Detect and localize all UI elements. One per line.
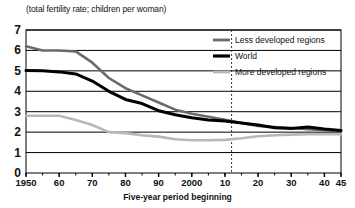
y-tick-label-7: 7 [3, 24, 21, 36]
y-tick-label-6: 6 [3, 44, 21, 56]
x-tick-label-2045: 45 [326, 178, 355, 188]
x-tick-label-2010: 10 [210, 178, 240, 188]
y-tick-label-4: 4 [3, 85, 21, 97]
x-axis-title: Five-year period beginning [0, 192, 355, 202]
x-tick-label-1960: 60 [44, 178, 74, 188]
y-tick-label-1: 1 [3, 147, 21, 159]
series-line-1 [26, 70, 341, 130]
x-tick-label-2020: 20 [243, 178, 273, 188]
legend-label-1: World [235, 51, 257, 61]
x-tick-label-1980: 80 [110, 178, 140, 188]
legend-label-0: Less developed regions [235, 35, 325, 45]
y-tick-label-2: 2 [3, 126, 21, 138]
x-tick-label-2000: 2000 [177, 178, 207, 188]
y-tick-label-3: 3 [3, 106, 21, 118]
x-tick-label-1990: 90 [144, 178, 174, 188]
fertility-rate-chart: (total fertility rate; children per woma… [0, 0, 355, 208]
x-tick-label-2030: 30 [276, 178, 306, 188]
x-tick-label-1970: 70 [77, 178, 107, 188]
y-tick-label-5: 5 [3, 65, 21, 77]
x-tick-label-1950: 1950 [11, 178, 41, 188]
legend-label-2: More developed regions [235, 67, 326, 77]
